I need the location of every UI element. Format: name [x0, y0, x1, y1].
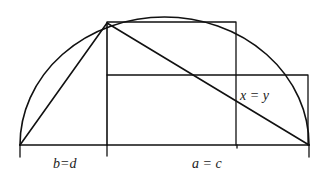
geometry-diagram: x = y b=d a = c	[0, 0, 323, 174]
semicircle-arc	[20, 17, 309, 145]
left-chord	[20, 23, 107, 145]
lower-rectangle	[107, 75, 308, 145]
label-right-segment: a = c	[192, 156, 222, 171]
label-intersection: x = y	[239, 88, 270, 103]
right-chord	[107, 23, 309, 145]
label-left-segment: b=d	[53, 156, 77, 171]
upper-rectangle	[107, 22, 236, 145]
